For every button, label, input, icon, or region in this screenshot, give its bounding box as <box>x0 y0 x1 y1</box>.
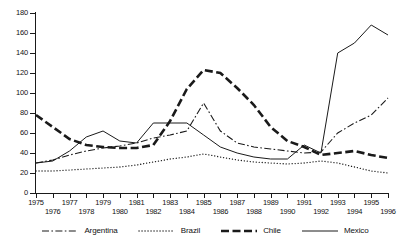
x-axis-tick <box>254 194 255 198</box>
x-axis-tick-label: 1988 <box>241 208 267 216</box>
x-axis-tick-label: 1996 <box>375 208 401 216</box>
line-chart: 020406080100120140160180 197519761977197… <box>0 0 410 242</box>
x-axis-tick <box>321 194 322 198</box>
x-axis-tick <box>120 194 121 198</box>
x-axis-tick <box>187 194 188 198</box>
x-axis-tick-label: 1975 <box>23 199 49 207</box>
y-axis-tick-label: 40 <box>4 149 28 157</box>
y-axis-tick-label: 160 <box>4 29 28 37</box>
x-axis-tick-label: 1986 <box>207 208 233 216</box>
x-axis-tick-label: 1985 <box>191 199 217 207</box>
x-axis-tick-label: 1984 <box>174 208 200 216</box>
y-axis-tick-label: 20 <box>4 169 28 177</box>
thick-dashed-line-marker <box>220 227 258 235</box>
x-axis-tick <box>53 194 54 198</box>
x-axis-tick-label: 1981 <box>124 199 150 207</box>
y-axis-tick-label: 100 <box>4 89 28 97</box>
solid-line-marker <box>301 227 339 235</box>
x-axis-tick-label: 1987 <box>224 199 250 207</box>
chart-legend: ArgentinaBrazilChileMexico <box>0 222 410 240</box>
x-axis-tick-label: 1978 <box>73 208 99 216</box>
y-axis-tick-label: 140 <box>4 49 28 57</box>
y-axis-tick-label: 180 <box>4 9 28 17</box>
x-axis-line <box>35 193 389 194</box>
legend-item-argentina[interactable]: Argentina <box>41 227 117 235</box>
x-axis-tick-label: 1990 <box>274 208 300 216</box>
legend-label: Argentina <box>84 227 117 235</box>
x-axis-tick-label: 1994 <box>341 208 367 216</box>
legend-label: Mexico <box>344 227 369 235</box>
x-axis-tick <box>153 194 154 198</box>
x-axis-tick <box>354 194 355 198</box>
x-axis-tick-label: 1979 <box>90 199 116 207</box>
x-axis-tick <box>287 194 288 198</box>
x-axis-tick-label: 1991 <box>291 199 317 207</box>
x-axis-tick-label: 1976 <box>40 208 66 216</box>
legend-item-mexico[interactable]: Mexico <box>301 227 369 235</box>
x-axis-tick <box>388 194 389 198</box>
x-axis-tick-label: 1980 <box>107 208 133 216</box>
series-line-brazil <box>36 154 388 173</box>
dotted-line-marker <box>138 227 176 235</box>
x-axis-tick <box>86 194 87 198</box>
x-axis-tick-label: 1995 <box>358 199 384 207</box>
x-axis-tick-label: 1982 <box>140 208 166 216</box>
x-axis-tick-label: 1992 <box>308 208 334 216</box>
y-axis-tick-label: 60 <box>4 129 28 137</box>
y-axis-tick-label: 120 <box>4 69 28 77</box>
x-axis-tick <box>220 194 221 198</box>
x-axis-tick-label: 1993 <box>325 199 351 207</box>
plot-area <box>36 13 388 193</box>
series-line-chile <box>36 70 388 158</box>
legend-item-chile[interactable]: Chile <box>220 227 281 235</box>
legend-label: Brazil <box>181 227 200 235</box>
legend-item-brazil[interactable]: Brazil <box>138 227 200 235</box>
x-axis-tick-label: 1977 <box>57 199 83 207</box>
legend-label: Chile <box>263 227 281 235</box>
x-axis-tick-label: 1989 <box>258 199 284 207</box>
y-axis-tick-label: 80 <box>4 109 28 117</box>
y-axis-tick-label: 0 <box>4 189 28 197</box>
series-line-mexico <box>36 25 388 163</box>
x-axis-tick-label: 1983 <box>157 199 183 207</box>
series-lines <box>36 13 388 193</box>
dash-dot-line-marker <box>41 227 79 235</box>
